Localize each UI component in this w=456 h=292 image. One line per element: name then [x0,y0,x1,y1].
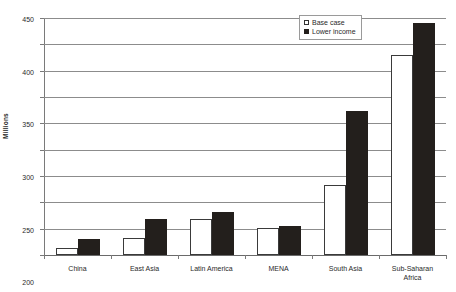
bar-lower-income [346,111,368,255]
x-label-line: MENA [268,264,288,273]
bar-base-case [324,185,346,255]
bar-lower-income [145,219,167,255]
x-tick-mark [446,255,447,259]
bars-layer [44,18,446,255]
x-tick-mark [44,255,45,259]
bar-base-case [123,238,145,255]
bar-base-case [56,248,78,255]
x-axis-label: China [68,264,86,273]
legend-item-lower-income: Lower income [304,27,356,36]
y-tick-label: 450 [22,16,34,23]
x-axis-label: Latin America [190,264,232,273]
x-axis-label: MENA [268,264,288,273]
x-label-line: Sub-Saharan [392,264,433,273]
x-label-line: Latin America [190,264,232,273]
chart-legend: Base case Lower income [299,15,362,40]
x-tick-mark [312,255,313,259]
x-axis-label: East Asia [130,264,159,273]
y-tick-label: 250 [22,226,34,233]
y-tick-label: 400 [22,68,34,75]
legend-label-lower-income: Lower income [312,27,356,36]
x-label-line: China [68,264,86,273]
x-label-line: South Asia [329,264,362,273]
x-axis-label: Sub-SaharanAfrica [392,264,433,282]
bar-chart: Millions 050100150200250300350400450 Chi… [0,0,456,292]
bar-lower-income [279,226,301,255]
y-tick-label: 350 [22,121,34,128]
x-tick-mark [178,255,179,259]
x-axis-label: South Asia [329,264,362,273]
legend-item-base-case: Base case [304,18,356,27]
legend-swatch-hollow-square-icon [304,20,309,25]
y-axis-title: Millions [2,96,9,156]
x-tick-mark [245,255,246,259]
bar-lower-income [212,212,234,255]
x-label-line: Africa [392,273,433,282]
bar-base-case [257,228,279,255]
x-tick-mark [111,255,112,259]
y-tick-label: 200 [22,279,34,286]
y-tick-label: 300 [22,174,34,181]
bar-base-case [190,219,212,255]
x-tick-mark [379,255,380,259]
plot-area: 050100150200250300350400450 ChinaEast As… [44,18,446,255]
x-label-line: East Asia [130,264,159,273]
bar-lower-income [413,23,435,255]
bar-lower-income [78,239,100,255]
legend-swatch-filled-square-icon [304,29,309,34]
bar-base-case [391,55,413,255]
legend-label-base-case: Base case [312,18,345,27]
